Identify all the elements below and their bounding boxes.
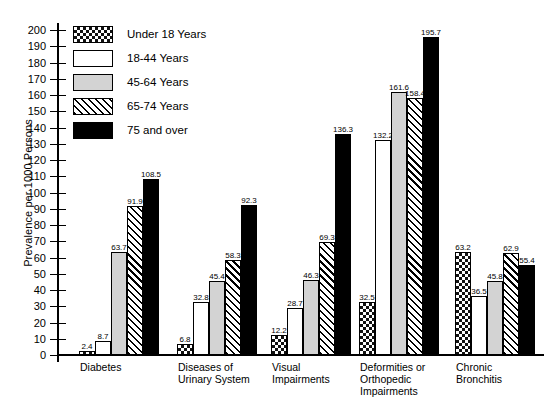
- bar-value-label: 63.2: [455, 243, 471, 252]
- bar-value-label: 32.5: [359, 293, 375, 302]
- x-axis-category-label: Diabetes: [80, 361, 121, 373]
- y-tick-label: 80: [0, 220, 46, 231]
- legend-label: Under 18 Years: [127, 28, 206, 40]
- bar-value-label: 62.9: [503, 244, 519, 253]
- bar-value-label: 195.7: [421, 28, 441, 37]
- y-tick: [50, 355, 66, 356]
- legend-label: 75 and over: [127, 124, 188, 136]
- bar-value-label: 55.4: [519, 256, 535, 265]
- x-axis-category-label: Visual Impairments: [272, 361, 330, 385]
- bar: 63.7: [111, 252, 127, 356]
- x-axis-category-label: Deformities or Orthopedic Impairments: [360, 361, 425, 397]
- y-tick-label: 190: [0, 41, 46, 52]
- y-tick-label: 30: [0, 301, 46, 312]
- bar-value-label: 6.8: [179, 335, 190, 344]
- bar: 32.8: [193, 302, 209, 355]
- y-tick-label: 0: [0, 350, 46, 361]
- bar: 46.3: [303, 280, 319, 355]
- bar-group-bars: 12.228.746.369.3136.3: [271, 23, 351, 355]
- bar-value-label: 92.3: [241, 196, 257, 205]
- bar-value-label: 28.7: [287, 299, 303, 308]
- bar-value-label: 8.7: [97, 332, 108, 341]
- legend-swatch: [73, 122, 113, 139]
- bar-value-label: 36.5: [471, 287, 487, 296]
- y-tick-label: 50: [0, 269, 46, 280]
- bar: 32.5: [359, 302, 375, 355]
- x-axis-category-label: Chronic Bronchitis: [456, 361, 502, 385]
- bar-value-label: 46.3: [303, 271, 319, 280]
- bar-group-bars: 32.5132.2161.6158.4195.7: [359, 23, 439, 355]
- legend-label: 18-44 Years: [127, 52, 188, 64]
- y-tick-label: 160: [0, 90, 46, 101]
- legend-item: 75 and over: [73, 118, 206, 142]
- bar: 132.2: [375, 140, 391, 355]
- bar: 108.5: [143, 179, 159, 355]
- y-tick-label: 180: [0, 58, 46, 69]
- bar: 45.8: [487, 281, 503, 355]
- bar-value-label: 69.3: [319, 233, 335, 242]
- bar: 136.3: [335, 134, 351, 355]
- y-tick-label: 130: [0, 139, 46, 150]
- bar-value-label: 45.8: [487, 272, 503, 281]
- legend-swatch: [73, 50, 113, 67]
- legend-swatch: [73, 98, 113, 115]
- bar: 158.4: [407, 98, 423, 355]
- y-tick-label: 90: [0, 204, 46, 215]
- bar-value-label: 63.7: [111, 243, 127, 252]
- bar-value-label: 158.4: [405, 89, 425, 98]
- bar: 69.3: [319, 242, 335, 355]
- legend-item: 18-44 Years: [73, 46, 206, 70]
- legend-label: 65-74 Years: [127, 100, 188, 112]
- bar: 91.9: [127, 206, 143, 355]
- bar: 28.7: [287, 308, 303, 355]
- y-tick-label: 60: [0, 253, 46, 264]
- legend-label: 45-64 Years: [127, 76, 188, 88]
- bar: 55.4: [519, 265, 535, 355]
- legend-swatch: [73, 26, 113, 43]
- y-tick-label: 150: [0, 106, 46, 117]
- y-tick-label: 110: [0, 171, 46, 182]
- x-axis-category-label: Diseases of Urinary System: [178, 361, 250, 385]
- legend-swatch: [73, 74, 113, 91]
- bar: 12.2: [271, 335, 287, 355]
- bar-value-label: 2.4: [81, 342, 92, 351]
- legend-item: 65-74 Years: [73, 94, 206, 118]
- bar: 6.8: [177, 344, 193, 355]
- bar: 62.9: [503, 253, 519, 355]
- y-tick-label: 20: [0, 318, 46, 329]
- legend: Under 18 Years18-44 Years45-64 Years65-7…: [73, 22, 206, 142]
- bar-value-label: 12.2: [271, 326, 287, 335]
- bar: 2.4: [79, 351, 95, 355]
- y-tick-label: 120: [0, 155, 46, 166]
- y-tick-label: 170: [0, 74, 46, 85]
- bar-value-label: 132.2: [373, 131, 393, 140]
- bar: 36.5: [471, 296, 487, 355]
- legend-item: 45-64 Years: [73, 70, 206, 94]
- bar-group-bars: 63.236.545.862.955.4: [455, 23, 535, 355]
- bar: 92.3: [241, 205, 257, 355]
- bar-value-label: 136.3: [333, 125, 353, 134]
- bar: 195.7: [423, 37, 439, 355]
- bar: 58.3: [225, 260, 241, 355]
- bar-chart: Prevalence per 1000 Persons 200190180170…: [0, 0, 553, 403]
- bar-value-label: 45.4: [209, 272, 225, 281]
- bar-value-label: 32.8: [193, 293, 209, 302]
- bar: 161.6: [391, 92, 407, 355]
- y-tick-label: 10: [0, 334, 46, 345]
- bar-value-label: 58.3: [225, 251, 241, 260]
- y-tick-label: 200: [0, 25, 46, 36]
- y-tick-label: 140: [0, 123, 46, 134]
- y-tick-label: 70: [0, 236, 46, 247]
- bar: 8.7: [95, 341, 111, 355]
- bar-value-label: 91.9: [127, 197, 143, 206]
- bar-value-label: 108.5: [141, 170, 161, 179]
- y-tick-label: 40: [0, 285, 46, 296]
- legend-item: Under 18 Years: [73, 22, 206, 46]
- bar: 63.2: [455, 252, 471, 355]
- bar: 45.4: [209, 281, 225, 355]
- y-tick-label: 100: [0, 188, 46, 199]
